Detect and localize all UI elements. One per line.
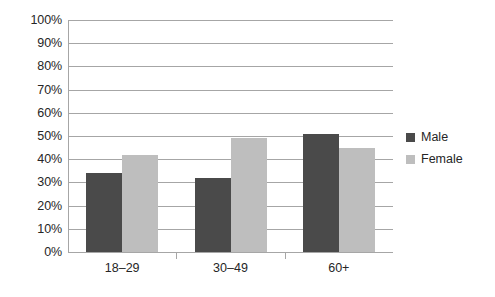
y-tick-label: 30%	[0, 176, 62, 189]
x-category-label: 60+	[285, 262, 393, 275]
y-tick-label: 10%	[0, 223, 62, 236]
bar-female-0	[122, 155, 158, 252]
y-axis: 0%10%20%30%40%50%60%70%80%90%100%	[0, 0, 62, 297]
x-axis-tick	[176, 253, 177, 259]
female-legend-swatch	[406, 155, 415, 164]
bars	[68, 20, 393, 252]
legend-item-male[interactable]: Male	[406, 126, 491, 148]
bar-male-2	[303, 134, 339, 252]
bar-female-2	[339, 148, 375, 252]
bar-male-1	[195, 178, 231, 252]
y-tick-label: 90%	[0, 37, 62, 50]
y-tick-label: 20%	[0, 200, 62, 213]
plot-area	[68, 20, 393, 252]
x-category-label: 18–29	[68, 262, 176, 275]
male-legend-swatch	[406, 133, 415, 142]
y-tick-label: 70%	[0, 84, 62, 97]
y-tick-label: 50%	[0, 130, 62, 143]
y-tick-label: 60%	[0, 107, 62, 120]
y-tick-label: 40%	[0, 153, 62, 166]
x-axis-tick	[285, 253, 286, 259]
x-category-label: 30–49	[176, 262, 284, 275]
legend: Male Female	[406, 126, 491, 170]
y-tick-label: 80%	[0, 60, 62, 73]
bar-male-0	[86, 173, 122, 252]
bar-female-1	[231, 138, 267, 252]
legend-label-female: Female	[421, 153, 463, 166]
legend-item-female[interactable]: Female	[406, 148, 491, 170]
bar-chart: 0%10%20%30%40%50%60%70%80%90%100% 18–293…	[0, 0, 495, 297]
x-axis-labels: 18–2930–4960+	[68, 262, 393, 282]
y-tick-label: 0%	[0, 246, 62, 259]
x-axis-line	[68, 252, 393, 253]
legend-label-male: Male	[421, 131, 448, 144]
y-tick-label: 100%	[0, 14, 62, 27]
